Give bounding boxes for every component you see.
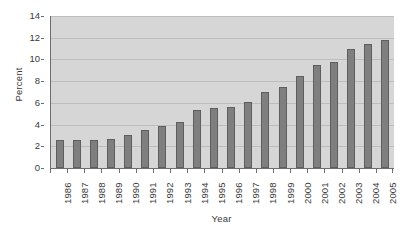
x-axis-tick-mark xyxy=(307,169,308,173)
bar xyxy=(73,140,81,168)
bar-slot xyxy=(257,16,274,168)
x-axis-tick-mark xyxy=(239,169,240,173)
x-axis-tick-label: 1992 xyxy=(165,182,175,204)
x-axis-tick-mark xyxy=(359,169,360,173)
bar-slot xyxy=(205,16,222,168)
bar xyxy=(279,87,287,168)
y-axis-tick-mark xyxy=(41,38,44,39)
x-axis-tick-mark xyxy=(256,169,257,173)
x-axis-tick-mark xyxy=(273,169,274,173)
x-axis-tick-label: 1995 xyxy=(217,182,227,204)
bar-slot xyxy=(188,16,205,168)
bar-slot xyxy=(154,16,171,168)
x-axis-tick-label: 1986 xyxy=(63,182,73,204)
y-axis-tick-mark xyxy=(41,16,44,17)
y-axis-tick-labels: 02468101214 xyxy=(22,16,44,168)
bars-layer xyxy=(51,16,394,168)
x-axis-tick-mark xyxy=(84,169,85,173)
x-axis-tick-label: 1996 xyxy=(234,182,244,204)
x-axis-tick-mark xyxy=(153,169,154,173)
y-axis-tick-mark xyxy=(41,125,44,126)
x-axis-tick-mark xyxy=(392,169,393,173)
x-axis-tick-label: 2001 xyxy=(320,182,330,204)
bar xyxy=(296,76,304,168)
x-axis-tick-label: 1988 xyxy=(97,182,107,204)
x-axis-tick-mark xyxy=(204,169,205,173)
x-axis-tick-label: 1998 xyxy=(268,182,278,204)
x-axis-tick-mark xyxy=(119,169,120,173)
bar-slot xyxy=(102,16,119,168)
y-axis-tick-mark xyxy=(41,146,44,147)
bar-slot xyxy=(68,16,85,168)
bar-slot xyxy=(137,16,154,168)
bar xyxy=(330,62,338,168)
x-axis-tick-label: 1993 xyxy=(183,182,193,204)
bar-slot xyxy=(51,16,68,168)
y-axis-tick-label: 12 xyxy=(29,33,40,43)
x-axis-tick-mark xyxy=(222,169,223,173)
x-axis-tick-label: 2000 xyxy=(303,182,313,204)
y-axis-tick-label: 10 xyxy=(29,55,40,65)
y-axis-tick-mark xyxy=(41,81,44,82)
bar xyxy=(381,40,389,168)
x-axis-tick-label: 1990 xyxy=(131,182,141,204)
bar-slot xyxy=(308,16,325,168)
x-axis-tick-mark xyxy=(342,169,343,173)
bar-chart: Percent 02468101214 19861987198819891990… xyxy=(0,0,407,236)
x-axis-tick-labels: 1986198719881989199019911992199319941995… xyxy=(50,174,393,208)
bar xyxy=(261,92,269,168)
x-axis-tick-mark xyxy=(170,169,171,173)
bar-slot xyxy=(120,16,137,168)
x-axis-tick-label: 2005 xyxy=(388,182,398,204)
bar-slot xyxy=(360,16,377,168)
x-axis-title: Year xyxy=(50,213,393,224)
x-axis-tick-label: 1991 xyxy=(148,182,158,204)
bar-slot xyxy=(85,16,102,168)
x-axis-tick-label: 2003 xyxy=(354,182,364,204)
y-axis-tick-label: 6 xyxy=(35,98,40,108)
bar xyxy=(210,108,218,168)
bar xyxy=(227,107,235,168)
bar xyxy=(141,130,149,168)
bar xyxy=(313,65,321,168)
bar-slot xyxy=(223,16,240,168)
bar-slot xyxy=(274,16,291,168)
x-axis-tick-label: 2004 xyxy=(371,182,381,204)
x-axis-tick-mark xyxy=(376,169,377,173)
y-axis-tick-label: 0 xyxy=(35,163,40,173)
x-axis-tick-mark xyxy=(50,169,51,173)
bar xyxy=(124,135,132,168)
bar xyxy=(107,139,115,168)
bar xyxy=(90,140,98,168)
x-axis-tick-mark xyxy=(136,169,137,173)
bar-slot xyxy=(240,16,257,168)
plot-area xyxy=(50,16,394,169)
x-axis-tick-label: 1989 xyxy=(114,182,124,204)
bar-slot xyxy=(325,16,342,168)
y-axis-tick-label: 14 xyxy=(29,11,40,21)
bar xyxy=(364,44,372,168)
x-axis-tick-mark xyxy=(67,169,68,173)
x-axis-tick-label: 1999 xyxy=(286,182,296,204)
bar xyxy=(347,49,355,168)
bar xyxy=(193,110,201,168)
bar xyxy=(158,126,166,168)
x-axis-tick-mark xyxy=(187,169,188,173)
bar-slot xyxy=(377,16,394,168)
x-axis-tick-label: 2002 xyxy=(337,182,347,204)
y-axis-tick-mark xyxy=(41,168,44,169)
y-axis-tick-label: 4 xyxy=(35,120,40,130)
x-axis-tick-label: 1987 xyxy=(80,182,90,204)
bar xyxy=(244,102,252,168)
y-axis-tick-label: 2 xyxy=(35,142,40,152)
bar-slot xyxy=(171,16,188,168)
x-axis-tick-mark xyxy=(101,169,102,173)
y-axis-tick-mark xyxy=(41,103,44,104)
y-axis-tick-mark xyxy=(41,59,44,60)
x-axis-tick-mark xyxy=(290,169,291,173)
bar-slot xyxy=(343,16,360,168)
x-axis-tick-mark xyxy=(324,169,325,173)
x-axis-tick-label: 1994 xyxy=(200,182,210,204)
bar xyxy=(56,140,64,168)
x-axis-tick-label: 1997 xyxy=(251,182,261,204)
